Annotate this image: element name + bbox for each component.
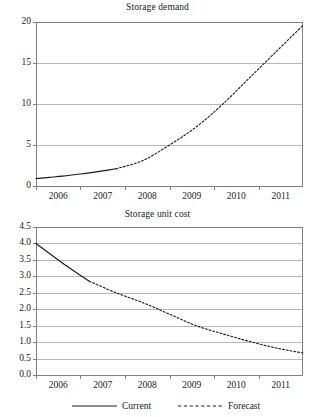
x-tick-label: 2009 (170, 191, 214, 201)
x-tick-label: 2008 (125, 191, 169, 201)
x-tick-label: 2006 (36, 380, 80, 390)
legend-line-dashed-icon (178, 401, 223, 411)
y-tick-label: 3.0 (0, 270, 31, 280)
plot-area-storage-unit-cost (0, 205, 315, 390)
y-tick-label: 0 (0, 180, 31, 190)
y-tick-label: 0.0 (0, 369, 31, 379)
x-tick-label: 2010 (214, 380, 258, 390)
y-tick-label: 4.5 (0, 221, 31, 231)
legend-line-solid-icon (72, 401, 117, 411)
chart-storage-demand: Storage demand 05101520 2006200720082009… (0, 0, 315, 205)
y-tick-label: 20 (0, 16, 31, 26)
x-tick-label: 2008 (125, 380, 169, 390)
two-chart-figure: Storage demand 05101520 2006200720082009… (0, 0, 315, 417)
y-tick-label: 10 (0, 98, 31, 108)
plot-area-storage-demand (0, 0, 315, 205)
x-tick-label: 2010 (214, 191, 258, 201)
y-tick-label: 5 (0, 139, 31, 149)
y-tick-label: 0.5 (0, 353, 31, 363)
x-tick-label: 2011 (259, 380, 303, 390)
y-tick-label: 2.5 (0, 287, 31, 297)
x-tick-label: 2007 (81, 380, 125, 390)
x-tick-label: 2007 (81, 191, 125, 201)
chart-storage-unit-cost: Storage unit cost 0.00.51.01.52.02.53.03… (0, 205, 315, 390)
legend-label-current: Current (122, 401, 151, 411)
y-tick-label: 15 (0, 57, 31, 67)
legend-label-forecast: Forecast (228, 401, 260, 411)
figure-legend: Current Forecast (0, 396, 315, 417)
legend-entry-current: Current (72, 399, 151, 413)
y-tick-label: 1.0 (0, 336, 31, 346)
x-tick-label: 2006 (36, 191, 80, 201)
y-tick-label: 4.0 (0, 237, 31, 247)
x-tick-label: 2009 (170, 380, 214, 390)
y-tick-label: 2.0 (0, 303, 31, 313)
y-tick-label: 1.5 (0, 320, 31, 330)
y-tick-label: 3.5 (0, 254, 31, 264)
x-tick-label: 2011 (259, 191, 303, 201)
legend-entry-forecast: Forecast (178, 399, 260, 413)
